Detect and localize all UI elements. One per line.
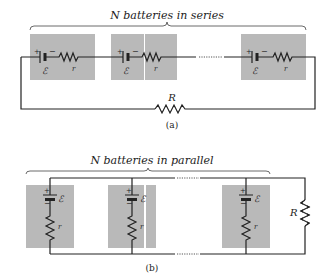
parallel-title: N batteries in parallel xyxy=(89,154,214,167)
svg-text:+: + xyxy=(34,48,40,56)
svg-text:+: + xyxy=(246,48,252,56)
series-title: N batteries in series xyxy=(109,9,224,22)
svg-text:+: + xyxy=(44,187,50,195)
svg-text:+: + xyxy=(240,187,246,195)
parallel-load-label: R xyxy=(289,207,298,218)
series-brace xyxy=(30,22,306,30)
svg-text:ℰ: ℰ xyxy=(140,194,147,204)
svg-text:+: + xyxy=(126,187,132,195)
parallel-cell-2b xyxy=(146,185,156,248)
svg-text:−: − xyxy=(49,47,56,56)
load-label: R xyxy=(167,92,176,103)
load-resistor xyxy=(155,105,187,113)
caption-a: (a) xyxy=(166,120,178,130)
svg-text:−: − xyxy=(44,199,51,208)
caption-b: (b) xyxy=(146,263,159,273)
svg-text:−: − xyxy=(132,47,139,56)
svg-text:−: − xyxy=(261,47,268,56)
svg-text:−: − xyxy=(126,199,133,208)
svg-text:−: − xyxy=(240,199,247,208)
parallel-circuit: N batteries in parallel R + − ℰ r + − xyxy=(26,154,309,273)
series-circuit: N batteries in series R + − ℰ r + − xyxy=(21,9,315,130)
svg-text:+: + xyxy=(117,48,123,56)
parallel-brace xyxy=(26,168,270,174)
circuit-diagrams: N batteries in series R + − ℰ r + − xyxy=(0,0,319,279)
